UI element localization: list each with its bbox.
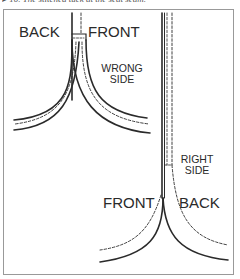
- seam-diagram: [0, 0, 240, 279]
- label-right-side-line1: RIGHT: [175, 154, 219, 165]
- label-right-side-line2: SIDE: [175, 165, 219, 176]
- label-wrong-side-line1: WRONG: [98, 63, 146, 74]
- label-right-side: RIGHT SIDE: [175, 154, 219, 175]
- label-front-bottom: FRONT: [103, 195, 155, 210]
- label-back-bottom: BACK: [179, 195, 220, 210]
- label-wrong-side: WRONG SIDE: [98, 63, 146, 84]
- label-front-top: FRONT: [88, 24, 140, 39]
- label-wrong-side-line2: SIDE: [98, 74, 146, 85]
- label-back-top: BACK: [19, 24, 60, 39]
